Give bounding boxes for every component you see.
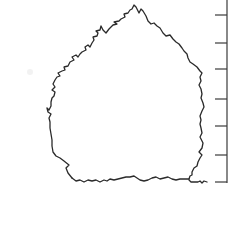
outline-tail-segment [189,180,207,183]
leaf-outline-bottom-edge [72,176,189,182]
leaf-outline [47,5,204,179]
measurement-scale [215,0,227,183]
scan-smudge [27,69,33,75]
diagram-canvas [0,0,236,240]
scale-ticks [215,15,227,182]
